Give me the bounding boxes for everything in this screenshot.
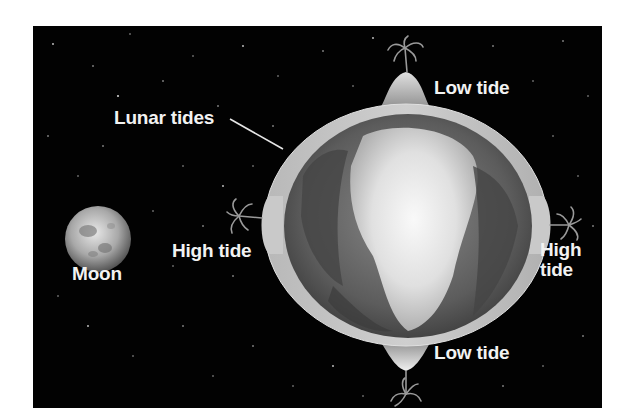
high-tide-right-line2: tide	[540, 260, 581, 280]
palm-tree-right-icon	[550, 207, 581, 240]
lunar-tides-pointer	[230, 119, 283, 149]
diagram-panel: Lunar tides Low tide High tide Moon High…	[33, 26, 602, 408]
earth-globe	[284, 114, 532, 338]
diagram-canvas	[33, 26, 602, 408]
moon-label: Moon	[72, 264, 122, 283]
palm-tree-bottom-icon	[391, 371, 421, 406]
low-tide-top-label: Low tide	[434, 78, 509, 97]
high-tide-right-line1: High	[540, 240, 581, 260]
high-tide-left-label: High tide	[172, 241, 251, 260]
low-tide-bottom-label: Low tide	[434, 343, 509, 362]
high-tide-bulge-left	[262, 196, 284, 254]
lunar-tides-label: Lunar tides	[114, 108, 214, 127]
palm-tree-top-icon	[388, 36, 423, 72]
high-tide-right-label: High tide	[540, 240, 581, 280]
palm-tree-left-icon	[227, 199, 262, 233]
